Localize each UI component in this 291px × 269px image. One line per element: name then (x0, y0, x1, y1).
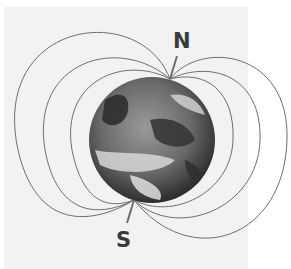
south-pole-label: S (116, 228, 131, 252)
earth-globe (89, 77, 215, 203)
north-pole-label: N (173, 29, 191, 53)
magnetic-field-diagram: N S (0, 0, 291, 269)
diagram-canvas: N S (0, 0, 291, 269)
